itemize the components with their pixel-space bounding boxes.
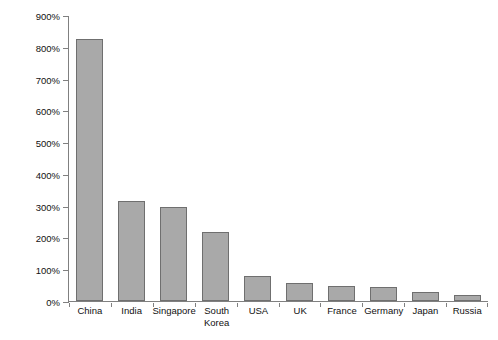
bar-slot: [279, 16, 321, 301]
bar-usa[interactable]: [244, 276, 271, 301]
y-tick-mark: [63, 80, 68, 81]
y-tick-mark: [63, 16, 68, 17]
bars-layer: [69, 16, 488, 301]
bar-slot: [69, 16, 111, 301]
bar-slot: [153, 16, 195, 301]
bar-france[interactable]: [328, 286, 355, 301]
y-tick-label: 500%: [36, 138, 60, 149]
bar-slot: [404, 16, 446, 301]
plot-area: 0% 100% 200% 300% 400% 500% 600%: [68, 16, 488, 302]
x-axis-label-south-korea: South Korea: [196, 305, 238, 328]
bar-india[interactable]: [118, 201, 145, 301]
y-tick-label: 600%: [36, 106, 60, 117]
y-tick-label: 400%: [36, 169, 60, 180]
bar-slot: [195, 16, 237, 301]
y-tick-label: 800%: [36, 42, 60, 53]
bar-germany[interactable]: [370, 287, 397, 301]
y-tick-mark: [63, 175, 68, 176]
y-tick-mark: [63, 270, 68, 271]
bar-uk[interactable]: [286, 283, 313, 301]
y-tick-mark: [63, 238, 68, 239]
bar-south-korea[interactable]: [202, 232, 229, 301]
y-tick-label: 700%: [36, 74, 60, 85]
x-axis-label-germany: Germany: [363, 305, 405, 328]
bar-russia[interactable]: [454, 295, 481, 301]
x-axis-line: [68, 301, 488, 302]
x-axis-label-france: France: [321, 305, 363, 328]
bar-china[interactable]: [76, 39, 103, 301]
x-axis-label-singapore: Singapore: [153, 305, 196, 328]
bar-singapore[interactable]: [160, 207, 187, 301]
y-tick-label: 100%: [36, 265, 60, 276]
bar-slot: [446, 16, 488, 301]
y-tick-mark: [63, 143, 68, 144]
y-tick-label: 900%: [36, 11, 60, 22]
bar-slot: [362, 16, 404, 301]
y-tick-mark: [63, 207, 68, 208]
x-axis-label-india: India: [111, 305, 153, 328]
bar-japan[interactable]: [412, 292, 439, 301]
x-axis-label-china: China: [69, 305, 111, 328]
y-tick-label: 300%: [36, 201, 60, 212]
y-tick-mark: [63, 48, 68, 49]
x-axis-labels: ChinaIndiaSingaporeSouth KoreaUSAUKFranc…: [69, 305, 488, 328]
y-tick-mark: [63, 111, 68, 112]
bar-chart: % change in GDP from 1990 to 2013 0% 100…: [0, 0, 498, 340]
x-axis-label-japan: Japan: [405, 305, 447, 328]
bar-slot: [111, 16, 153, 301]
y-tick-label: 0%: [46, 297, 60, 308]
x-axis-label-usa: USA: [238, 305, 280, 328]
x-axis-label-uk: UK: [279, 305, 321, 328]
bar-slot: [237, 16, 279, 301]
y-tick-label: 200%: [36, 233, 60, 244]
y-tick-mark: [63, 302, 68, 303]
x-axis-label-russia: Russia: [446, 305, 488, 328]
bar-slot: [320, 16, 362, 301]
